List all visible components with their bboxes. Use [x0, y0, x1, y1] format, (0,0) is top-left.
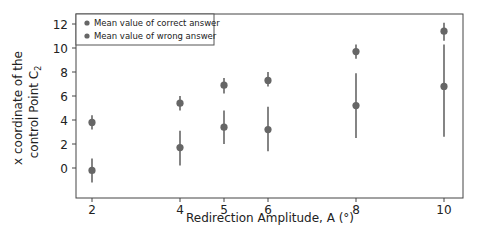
y-tick-label: 2: [60, 138, 68, 152]
data-point: [264, 126, 271, 133]
legend-label-correct: Mean value of correct answer: [94, 18, 220, 28]
x-axis-label: Redirection Amplitude, A (°): [186, 211, 354, 225]
data-point: [440, 83, 447, 90]
data-point: [88, 167, 95, 174]
y-axis-label-line2: control Point C2: [27, 66, 43, 159]
y-axis-label-line1: x coordinate of the: [11, 51, 25, 165]
data-point: [264, 77, 271, 84]
data-points: [88, 23, 447, 183]
data-point: [440, 28, 447, 35]
x-tick-label: 4: [176, 203, 184, 217]
y-tick-label: 0: [60, 162, 68, 176]
y-axis-ticks: 024681012: [53, 18, 76, 176]
legend-marker-wrong-icon: [84, 33, 89, 38]
y-tick-label: 4: [60, 114, 68, 128]
data-point: [220, 124, 227, 131]
error-bar-chart: 024681012 2456810 Mean value of correct …: [0, 0, 482, 238]
x-tick-label: 2: [88, 203, 96, 217]
legend-marker-correct-icon: [84, 20, 89, 25]
y-tick-label: 6: [60, 90, 68, 104]
data-point: [88, 119, 95, 126]
y-axis-label: x coordinate of the control Point C2: [11, 51, 43, 165]
y-tick-label: 10: [53, 42, 68, 56]
y-tick-label: 8: [60, 66, 68, 80]
data-point: [352, 48, 359, 55]
data-point: [220, 82, 227, 89]
data-point: [176, 100, 183, 107]
legend: Mean value of correct answer Mean value …: [76, 14, 220, 45]
legend-label-wrong: Mean value of wrong answer: [94, 31, 217, 41]
y-tick-label: 12: [53, 18, 68, 32]
data-point: [352, 102, 359, 109]
x-tick-label: 10: [436, 203, 451, 217]
data-point: [176, 144, 183, 151]
